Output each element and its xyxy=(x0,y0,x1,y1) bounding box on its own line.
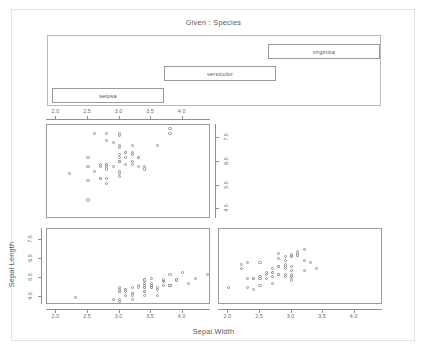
data-point xyxy=(68,172,71,175)
x-axis-tick-label: 2.5 xyxy=(79,313,95,319)
data-point xyxy=(168,284,171,287)
data-point xyxy=(168,273,171,276)
data-point xyxy=(277,273,280,276)
x-axis-tick xyxy=(291,309,292,313)
data-point xyxy=(131,153,134,156)
data-point xyxy=(175,278,178,281)
data-point xyxy=(206,273,209,276)
data-point xyxy=(143,290,146,293)
coplot-figure: Given : Species setosaversicolorvirginic… xyxy=(0,0,427,351)
data-point xyxy=(137,156,140,159)
data-point xyxy=(124,294,127,297)
data-point xyxy=(168,127,171,130)
data-point xyxy=(74,296,77,299)
x-axis-tick xyxy=(87,116,88,120)
y-axis-tick-label: 7.5 xyxy=(27,232,33,246)
x-axis-tick xyxy=(182,309,183,313)
x-axis-tick xyxy=(182,116,183,120)
data-point xyxy=(124,151,127,154)
data-point xyxy=(143,167,146,170)
x-axis-line-setosa xyxy=(46,309,210,310)
y-axis-tick-label: 5.5 xyxy=(223,178,229,192)
data-point xyxy=(284,263,287,266)
x-axis-tick-label: 3.0 xyxy=(283,313,299,319)
x-axis-tick xyxy=(55,116,56,120)
data-point xyxy=(118,290,121,293)
x-axis-tick-label: 3.0 xyxy=(111,108,127,114)
y-axis-tick xyxy=(38,258,42,259)
data-point xyxy=(303,269,306,272)
data-point xyxy=(246,261,249,264)
data-point xyxy=(271,275,274,278)
data-point xyxy=(290,253,293,256)
data-point xyxy=(271,282,274,285)
data-point xyxy=(258,284,261,287)
scatter-panel-versicolor xyxy=(218,228,382,304)
data-point xyxy=(240,267,243,270)
y-axis-tick xyxy=(215,185,219,186)
data-point xyxy=(156,288,159,291)
data-point xyxy=(277,252,280,255)
data-point xyxy=(162,284,165,287)
data-point xyxy=(258,277,261,280)
data-point xyxy=(284,259,287,262)
x-axis-tick-label: 3.0 xyxy=(111,313,127,319)
x-axis-tick xyxy=(259,309,260,313)
y-axis-tick-label: 4.5 xyxy=(223,201,229,215)
x-axis-tick-label: 2.5 xyxy=(251,313,267,319)
data-point xyxy=(112,165,115,168)
data-point xyxy=(265,271,268,274)
data-point xyxy=(284,267,287,270)
data-point xyxy=(246,286,249,289)
data-point xyxy=(240,263,243,266)
data-point xyxy=(277,257,280,260)
data-point xyxy=(227,286,230,289)
shingle-bar-versicolor[interactable]: versicolor xyxy=(164,66,276,81)
given-title: Given : Species xyxy=(0,18,427,27)
data-point xyxy=(187,282,190,285)
data-point xyxy=(118,175,121,178)
x-axis-tick xyxy=(227,309,228,313)
data-point xyxy=(131,163,134,166)
shingle-bar-virginica[interactable]: virginica xyxy=(268,44,380,59)
data-point xyxy=(118,132,121,135)
x-axis-tick xyxy=(119,116,120,120)
data-point xyxy=(168,132,171,135)
scatter-panel-virginica xyxy=(46,124,210,218)
data-point xyxy=(143,278,146,281)
data-point xyxy=(137,165,140,168)
x-axis-tick-label: 3.5 xyxy=(314,313,330,319)
data-point xyxy=(284,255,287,258)
x-axis-line-virginica xyxy=(46,119,210,120)
x-axis-tick xyxy=(322,309,323,313)
y-axis-tick xyxy=(38,239,42,240)
data-point xyxy=(156,144,159,147)
data-point xyxy=(156,294,159,297)
x-axis-tick xyxy=(55,309,56,313)
data-point xyxy=(162,280,165,283)
data-point xyxy=(118,160,121,163)
shingle-label: setosa xyxy=(99,93,117,99)
y-axis-tick xyxy=(215,137,219,138)
data-point xyxy=(309,261,312,264)
data-point xyxy=(271,267,274,270)
data-point xyxy=(303,248,306,251)
shingle-bar-setosa[interactable]: setosa xyxy=(52,88,164,103)
data-point xyxy=(252,277,255,280)
y-axis-line-setosa xyxy=(41,228,42,304)
data-point xyxy=(124,163,127,166)
x-axis-tick-label: 4.0 xyxy=(174,108,190,114)
data-point xyxy=(99,165,102,168)
y-axis-title: Sepal Length xyxy=(7,230,16,300)
x-axis-tick-label: 2.5 xyxy=(79,108,95,114)
data-point xyxy=(290,265,293,268)
x-axis-tick xyxy=(354,309,355,313)
shingle-label: virginica xyxy=(313,49,335,55)
data-point xyxy=(143,294,146,297)
data-point xyxy=(86,156,89,159)
data-point xyxy=(284,273,287,276)
data-point xyxy=(112,141,115,144)
data-point xyxy=(131,144,134,147)
data-point xyxy=(105,177,108,180)
x-axis-tick-label: 4.0 xyxy=(174,313,190,319)
